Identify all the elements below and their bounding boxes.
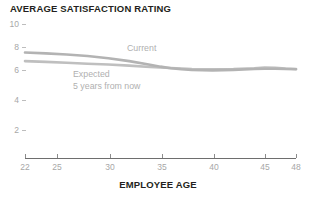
- x-axis-line: [25, 158, 296, 159]
- x-tick-label-35: 35: [157, 162, 166, 172]
- x-tick-label-40: 40: [209, 162, 218, 172]
- annotation-expected-line2: 5 years from now: [73, 81, 140, 93]
- x-tick-mark-30: [110, 154, 111, 158]
- annotation-expected: Expected 5 years from now: [73, 69, 140, 92]
- x-tick-mark-40: [214, 154, 215, 158]
- x-tick-mark-35: [162, 154, 163, 158]
- x-tick-mark-48: [296, 154, 297, 158]
- x-tick-label-25: 25: [52, 162, 61, 172]
- x-tick-label-48: 48: [291, 162, 300, 172]
- x-tick-mark-25: [57, 154, 58, 158]
- annotation-current-text: Current: [127, 43, 156, 53]
- x-tick-label-45: 45: [260, 162, 269, 172]
- annotation-current: Current: [127, 43, 156, 55]
- x-tick-label-22: 22: [20, 162, 29, 172]
- x-tick-mark-22: [25, 154, 26, 158]
- x-axis-title: EMPLOYEE AGE: [0, 179, 316, 190]
- annotation-expected-line1: Expected: [73, 69, 140, 81]
- x-tick-mark-45: [265, 154, 266, 158]
- x-tick-label-30: 30: [105, 162, 114, 172]
- chart-container: AVERAGE SATISFACTION RATING 10 8 6 4 2 C…: [0, 0, 316, 197]
